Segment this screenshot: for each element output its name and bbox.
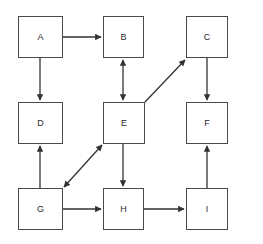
node-b-label: B: [120, 33, 126, 42]
node-f[interactable]: F: [186, 102, 228, 144]
node-c[interactable]: C: [186, 16, 228, 58]
edge-g-e: [64, 145, 102, 187]
node-i-label: I: [206, 205, 209, 214]
node-a-label: A: [37, 33, 43, 42]
node-i[interactable]: I: [186, 188, 228, 230]
node-h-label: H: [120, 205, 127, 214]
node-h[interactable]: H: [103, 188, 144, 230]
node-e-label: E: [121, 119, 127, 128]
node-g-label: G: [37, 205, 44, 214]
node-a[interactable]: A: [18, 16, 63, 58]
node-d[interactable]: D: [18, 102, 63, 144]
node-c-label: C: [204, 33, 211, 42]
node-e[interactable]: E: [103, 102, 145, 144]
node-g[interactable]: G: [18, 188, 63, 230]
node-f-label: F: [204, 119, 210, 128]
flow-diagram: A B C D E F G H I: [0, 0, 263, 244]
edge-e-to-c: [145, 60, 185, 102]
node-d-label: D: [37, 119, 44, 128]
node-b[interactable]: B: [103, 16, 144, 58]
